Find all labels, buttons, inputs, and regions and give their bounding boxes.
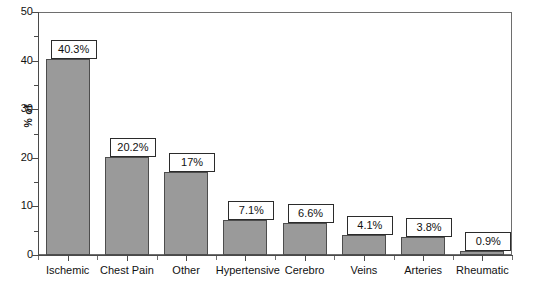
bar-veins [342, 235, 386, 255]
x-tick-center-other [186, 256, 187, 261]
x-tick-boundary-0 [38, 256, 39, 260]
x-tick-boundary-2 [157, 256, 158, 260]
data-label-ischemic: 40.3% [51, 40, 97, 59]
x-label-cerebro: Cerebro [275, 263, 334, 277]
x-label-arteries: Arteries [394, 263, 453, 277]
x-tick-center-veins [364, 256, 365, 261]
bar-rheumatic [460, 251, 504, 255]
x-tick-boundary-5 [334, 256, 335, 260]
y-minor-tick-35 [34, 85, 39, 86]
y-tick-label-30: 30 [7, 103, 33, 114]
data-label-veins: 4.1% [347, 216, 393, 235]
x-label-chest-pain: Chest Pain [97, 263, 156, 277]
y-tick-label-50: 50 [7, 6, 33, 17]
x-label-veins: Veins [334, 263, 393, 277]
data-label-cerebro: 6.6% [288, 204, 334, 223]
data-label-other: 17% [169, 153, 215, 172]
x-label-ischemic: Ischemic [38, 263, 97, 277]
data-label-chest-pain: 20.2% [110, 138, 156, 157]
x-tick-boundary-1 [97, 256, 98, 260]
x-label-hypertensive: Hypertensive [216, 263, 275, 277]
x-tick-center-rheumatic [482, 256, 483, 261]
x-tick-boundary-8 [512, 256, 513, 260]
y-tick-label-20: 20 [7, 152, 33, 163]
bar-ischemic [46, 59, 90, 255]
y-minor-tick-5 [34, 231, 39, 232]
y-tick-label-0: 0 [7, 249, 33, 260]
y-tick-label-10: 10 [7, 200, 33, 211]
x-tick-boundary-7 [453, 256, 454, 260]
x-label-rheumatic: Rheumatic [453, 263, 512, 277]
bar-hypertensive [223, 220, 267, 255]
y-tick-label-40: 40 [7, 55, 33, 66]
y-tick-mark-50 [32, 12, 39, 13]
x-tick-center-chest-pain [127, 256, 128, 261]
y-tick-mark-20 [32, 158, 39, 159]
x-tick-boundary-6 [394, 256, 395, 260]
data-label-arteries: 3.8% [406, 218, 452, 237]
y-minor-tick-25 [34, 134, 39, 135]
x-tick-center-arteries [423, 256, 424, 261]
bar-cerebro [283, 223, 327, 255]
y-minor-tick-45 [34, 36, 39, 37]
bar-chest-pain [105, 157, 149, 255]
x-tick-boundary-3 [216, 256, 217, 260]
y-tick-mark-10 [32, 206, 39, 207]
data-label-hypertensive: 7.1% [228, 201, 274, 220]
y-tick-mark-40 [32, 61, 39, 62]
x-tick-boundary-4 [275, 256, 276, 260]
x-tick-center-hypertensive [245, 256, 246, 261]
bar-arteries [401, 237, 445, 255]
x-tick-center-ischemic [68, 256, 69, 261]
x-tick-center-cerebro [305, 256, 306, 261]
bar-other [164, 172, 208, 255]
y-tick-mark-30 [32, 109, 39, 110]
x-label-other: Other [157, 263, 216, 277]
data-label-rheumatic: 0.9% [465, 232, 511, 251]
y-axis-tick-labels: 01020304050 [0, 0, 33, 290]
bar-chart: % of 01020304050 40.3%20.2%17%7.1%6.6%4.… [0, 0, 538, 290]
y-minor-tick-15 [34, 182, 39, 183]
